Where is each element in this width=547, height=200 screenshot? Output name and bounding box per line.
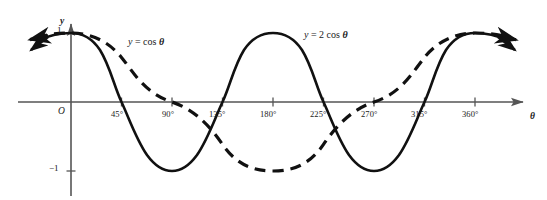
series-label-two-cos-theta-eq: = (308, 29, 319, 40)
origin-label: O (58, 107, 65, 117)
x-tick-label-360: 360° (462, 110, 479, 119)
series-label-cos-theta: y = cos θ (128, 37, 164, 47)
series-label-cos-theta-eq: = (132, 36, 143, 47)
x-axis-label: θ (530, 112, 535, 122)
y-tick-label-positive-one: 1 (57, 26, 62, 35)
x-tick-label-90: 90° (162, 110, 174, 119)
series-label-cos-theta-fn: cos (143, 36, 159, 47)
series-label-two-cos-theta: y = 2 cos θ (304, 30, 348, 40)
x-tick-label-270: 270° (361, 110, 378, 119)
x-tick-label-180: 180° (260, 110, 277, 119)
series-label-two-cos-theta-fn: 2 cos (319, 29, 342, 40)
x-tick-label-315: 315° (411, 110, 428, 119)
series-label-two-cos-theta-arg: θ (342, 29, 347, 40)
y-tick-label-negative-one: −1 (49, 164, 59, 173)
plot-canvas (0, 0, 547, 200)
trig-graph-figure: y θ O 1 −1 45° 90° 135° 180° 225° 270° 3… (0, 0, 547, 200)
series-label-cos-theta-arg: θ (159, 36, 164, 47)
x-tick-label-135: 135° (209, 110, 226, 119)
x-tick-label-225: 225° (310, 110, 327, 119)
x-tick-label-45: 45° (111, 110, 123, 119)
